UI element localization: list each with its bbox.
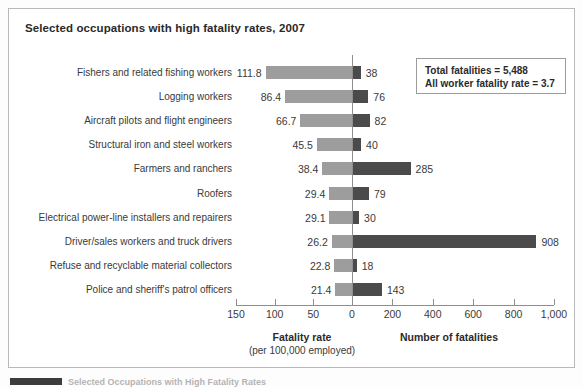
occupation-label: Logging workers <box>159 90 232 104</box>
axis-tick <box>473 299 474 305</box>
left-tick-label: 0 <box>349 308 355 320</box>
zero-axis-line <box>352 55 353 305</box>
fatality-count-bar <box>353 211 359 224</box>
occupation-label: Aircraft pilots and flight engineers <box>84 114 232 128</box>
fatality-count-bar <box>353 283 382 296</box>
right-tick-label: 800 <box>505 308 523 320</box>
fatality-count-value: 30 <box>364 211 376 225</box>
fatality-rate-bar <box>322 162 352 175</box>
fatality-count-bar <box>353 162 411 175</box>
fatality-count-value: 18 <box>362 259 374 273</box>
occupation-label: Structural iron and steel workers <box>89 138 232 152</box>
fatality-count-bar <box>353 66 361 79</box>
fatality-count-value: 82 <box>375 114 387 128</box>
fatality-rate-value: 21.4 <box>311 283 331 297</box>
right-axis-title: Number of fatalities <box>400 331 498 343</box>
occupation-label: Electrical power-line installers and rep… <box>39 211 232 225</box>
fatality-rate-value: 111.8 <box>237 66 262 80</box>
fatality-rate-value: 66.7 <box>276 114 296 128</box>
right-tick-label: 600 <box>464 308 482 320</box>
chart-row: Refuse and recyclable material collector… <box>9 258 576 274</box>
fatality-rate-value: 29.1 <box>305 211 325 225</box>
fatality-rate-value: 22.8 <box>310 259 330 273</box>
caption-swatch-icon <box>10 378 62 385</box>
all-worker-rate-text: All worker fatality rate = 3.7 <box>425 77 565 90</box>
axis-tick <box>433 299 434 305</box>
occupation-label: Refuse and recyclable material collector… <box>50 259 232 273</box>
occupation-label: Fishers and related fishing workers <box>77 66 232 80</box>
chart-panel: Selected occupations with high fatality … <box>8 8 575 368</box>
fatality-rate-bar <box>335 283 352 296</box>
fatality-count-value: 143 <box>387 283 405 297</box>
fatality-count-value: 40 <box>366 138 378 152</box>
axis-tick <box>554 299 555 305</box>
axis-tick <box>313 299 314 305</box>
axis-tick <box>236 299 237 305</box>
chart-row: Electrical power-line installers and rep… <box>9 210 576 226</box>
caption-text: Selected Occupations with High Fatality … <box>68 377 266 387</box>
chart-row: Farmers and ranchers38.4285 <box>9 161 576 177</box>
fatality-rate-value: 45.5 <box>292 138 312 152</box>
chart-row: Driver/sales workers and truck drivers26… <box>9 234 576 250</box>
chart-row: Roofers29.479 <box>9 186 576 202</box>
fatality-count-bar <box>353 187 369 200</box>
axis-tick <box>514 299 515 305</box>
chart-row: Structural iron and steel workers45.540 <box>9 137 576 153</box>
fatality-count-value: 285 <box>416 162 434 176</box>
right-tick-label: 1,000 <box>541 308 567 320</box>
fatality-rate-value: 86.4 <box>261 90 281 104</box>
fatality-rate-bar <box>317 138 352 151</box>
fatality-rate-bar <box>300 114 352 127</box>
total-fatalities-text: Total fatalities = 5,488 <box>425 64 565 77</box>
fatality-rate-bar <box>334 259 352 272</box>
chart-row: Aircraft pilots and flight engineers66.7… <box>9 113 576 129</box>
left-axis-line <box>236 305 352 306</box>
occupation-label: Roofers <box>197 187 232 201</box>
axis-tick <box>392 299 393 305</box>
left-tick-label: 50 <box>307 308 319 320</box>
fatality-rate-value: 38.4 <box>298 162 318 176</box>
right-axis-line <box>352 305 554 306</box>
occupation-label: Police and sheriff's patrol officers <box>86 283 232 297</box>
screenshot-root: Selected occupations with high fatality … <box>0 0 583 387</box>
fatality-rate-bar <box>266 66 352 79</box>
occupation-label: Farmers and ranchers <box>134 162 232 176</box>
fatality-rate-bar <box>285 90 352 103</box>
fatality-count-value: 79 <box>374 187 386 201</box>
left-tick-label: 100 <box>266 308 284 320</box>
fatality-count-value: 76 <box>373 90 385 104</box>
fatality-rate-bar <box>329 187 352 200</box>
fatality-count-value: 38 <box>366 66 378 80</box>
fatality-count-bar <box>353 259 357 272</box>
chart-row: Police and sheriff's patrol officers21.4… <box>9 282 576 298</box>
axis-tick <box>275 299 276 305</box>
fatality-count-bar <box>353 90 368 103</box>
fatality-rate-value: 29.4 <box>305 187 325 201</box>
fatality-count-bar <box>353 114 370 127</box>
right-tick-label: 200 <box>384 308 402 320</box>
left-tick-label: 150 <box>227 308 245 320</box>
left-axis-title: Fatality rate <box>273 331 332 343</box>
fatality-count-bar <box>353 138 361 151</box>
occupation-label: Driver/sales workers and truck drivers <box>65 235 232 249</box>
right-tick-label: 400 <box>424 308 442 320</box>
fatality-rate-bar <box>332 235 352 248</box>
summary-info-box: Total fatalities = 5,488 All worker fata… <box>416 58 566 94</box>
axis-tick <box>352 299 353 305</box>
left-axis-subtitle: (per 100,000 employed) <box>249 345 355 356</box>
fatality-rate-value: 26.2 <box>307 235 327 249</box>
fatality-count-bar <box>353 235 536 248</box>
bottom-caption: Selected Occupations with High Fatality … <box>10 377 270 387</box>
fatality-count-value: 908 <box>541 235 559 249</box>
fatality-rate-bar <box>329 211 352 224</box>
